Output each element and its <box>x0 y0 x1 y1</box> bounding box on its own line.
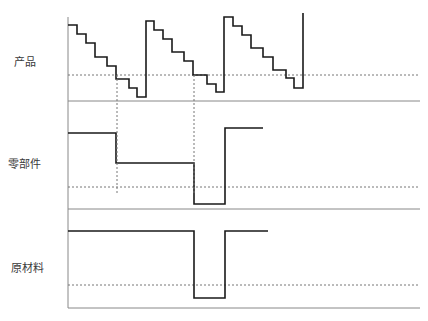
panel-raw-material <box>68 231 420 308</box>
inventory-timing-diagram <box>0 0 428 321</box>
raw-material-inventory-line <box>68 231 268 298</box>
component-inventory-line <box>68 128 263 204</box>
panel-component <box>68 128 420 209</box>
label-product: 产品 <box>14 53 36 69</box>
label-raw-material: 原材料 <box>11 259 44 275</box>
product-inventory-line <box>68 13 303 97</box>
panel-product <box>68 13 420 101</box>
label-component: 零部件 <box>8 155 41 171</box>
